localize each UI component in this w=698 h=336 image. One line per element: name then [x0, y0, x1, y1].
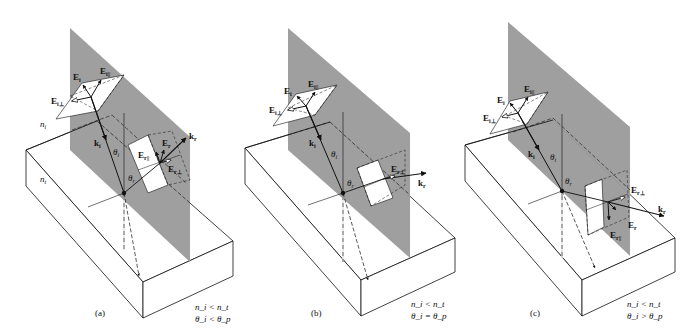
condition-angle-b: θ_i = θ_p — [411, 311, 447, 321]
label-E-i-perp: Ei⊥ — [51, 96, 64, 107]
panel-a: Ei Ei|| Ei⊥ ki θi θr ni nt Er|| Er Er⊥ k… — [26, 28, 233, 324]
svg-text:Ei⊥: Ei⊥ — [269, 105, 282, 116]
svg-text:kr: kr — [658, 204, 666, 215]
caption-c: (c) — [530, 308, 540, 318]
svg-text:kr: kr — [418, 178, 426, 189]
panel-b: Ei Ei|| Ei⊥ ki θi θr Er⊥ kr (b) n_i < n_… — [245, 28, 455, 321]
caption-a: (a) — [95, 308, 105, 318]
condition-index-c: n_i < n_t — [627, 299, 661, 309]
condition-angle-a: θ_i < θ_p — [195, 314, 231, 324]
condition-index-a: n_i < n_t — [195, 302, 229, 312]
label-n-i: ni — [40, 119, 47, 130]
condition-index-b: n_i < n_t — [411, 299, 445, 309]
svg-text:Ei: Ei — [497, 95, 505, 106]
svg-text:Er⊥: Er⊥ — [631, 185, 645, 196]
condition-angle-c: θ_i > θ_p — [627, 311, 663, 321]
caption-b: (b) — [311, 308, 322, 318]
point-of-incidence — [122, 191, 126, 195]
label-k-r: kr — [189, 131, 197, 142]
panel-c: Ei Ei|| Ei⊥ ki θi θr Er⊥ Er Er|| kr (c) … — [465, 22, 675, 321]
svg-text:Ei⊥: Ei⊥ — [483, 113, 496, 124]
polarization-reflection-figure: Ei Ei|| Ei⊥ ki θi θr ni nt Er|| Er Er⊥ k… — [0, 0, 698, 336]
